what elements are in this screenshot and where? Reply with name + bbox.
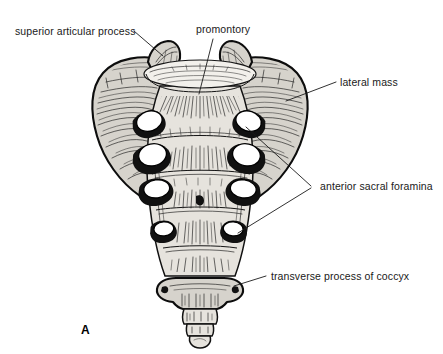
sacrum-illustration: superior articular process promontory la… <box>0 0 443 354</box>
panel-letter: A <box>81 323 90 337</box>
label-promontory: promontory <box>196 23 251 35</box>
label-lateral-mass: lateral mass <box>340 76 398 88</box>
label-anterior-sacral-foramina: anterior sacral foramina <box>320 180 433 192</box>
coccyx <box>157 278 243 348</box>
promontory-surface <box>144 60 256 92</box>
sacrum-body-group <box>92 41 307 348</box>
anatomy-figure-panel: superior articular process promontory la… <box>0 0 443 354</box>
label-superior-articular-process: superior articular process <box>15 25 135 37</box>
label-transverse-process-of-coccyx: transverse process of coccyx <box>271 270 410 282</box>
